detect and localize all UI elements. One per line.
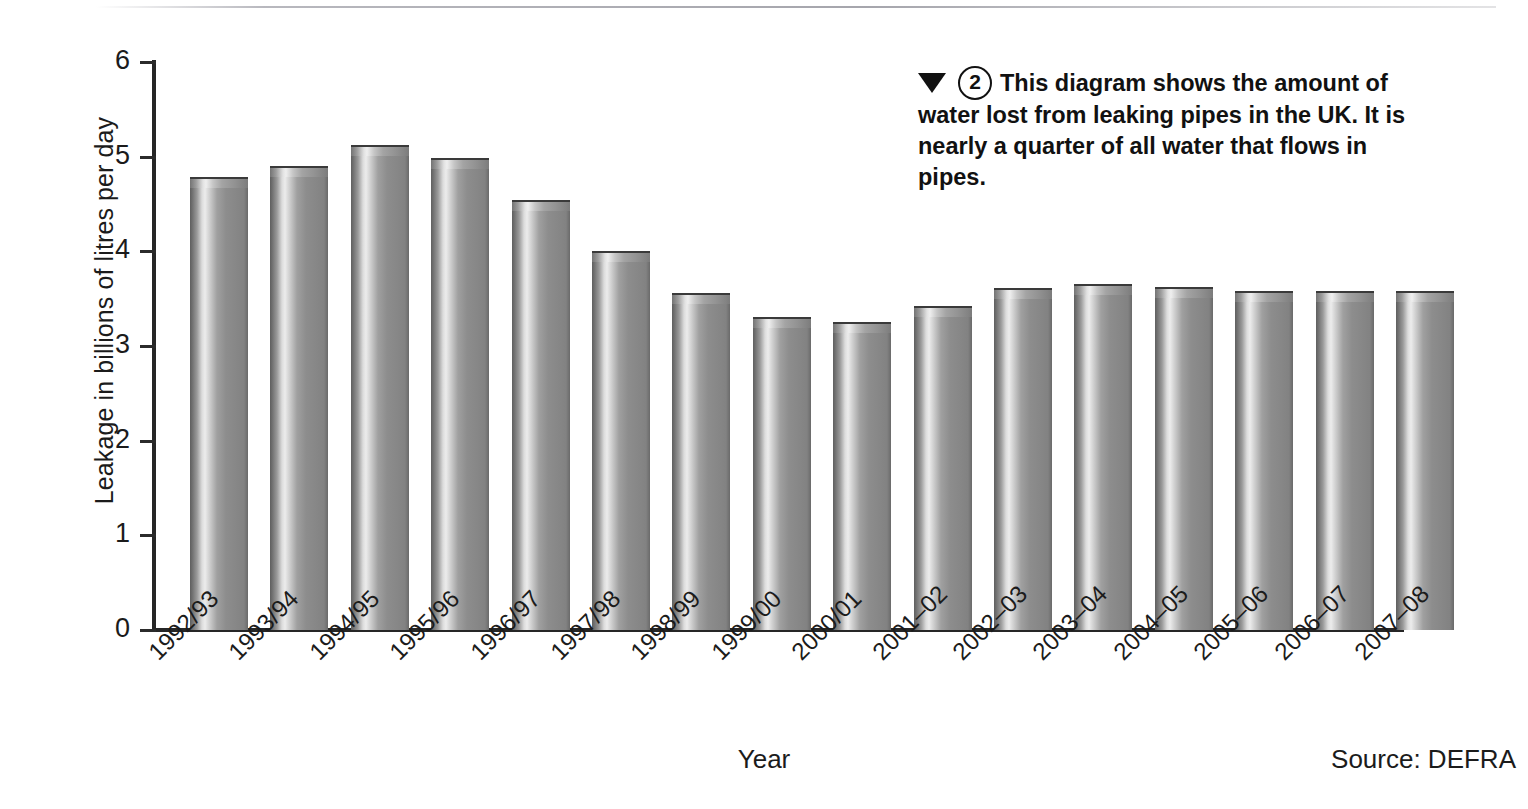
caption-number-badge: 2 bbox=[958, 66, 992, 100]
chart-figure: Leakage in billions of litres per day 65… bbox=[0, 0, 1528, 809]
x-axis-title: Year bbox=[664, 744, 864, 775]
caption-marker: 2 bbox=[918, 70, 1000, 96]
figure-caption: 2This diagram shows the amount of water … bbox=[918, 66, 1438, 193]
down-triangle-icon bbox=[918, 73, 946, 93]
source-note: Source: DEFRA bbox=[1331, 744, 1516, 775]
